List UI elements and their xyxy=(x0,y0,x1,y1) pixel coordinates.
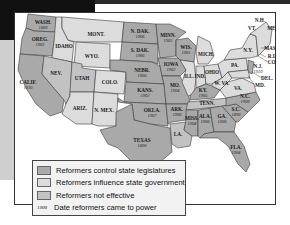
legend-label-date: Date reformers came to power xyxy=(54,203,157,212)
label-nh: N.H. xyxy=(255,17,266,23)
label-idaho: IDAHO xyxy=(55,43,73,49)
year-ark: 1900 xyxy=(173,112,183,117)
legend-item-not-effective: Reformers not effective xyxy=(37,189,181,202)
year-ga: 1906 xyxy=(218,119,228,124)
legend-label-control: Reformers control state legislatures xyxy=(56,166,175,175)
year-texas: 1890 xyxy=(138,143,148,148)
year-sdak: 1906 xyxy=(136,53,146,58)
year-iowa: 1902 xyxy=(167,67,177,72)
year-calif: 1910 xyxy=(24,85,34,90)
year-nj: 1910 xyxy=(254,69,264,74)
legend-swatch-not-effective xyxy=(37,191,51,200)
year-mo: 1904 xyxy=(171,88,181,93)
legend-swatch-control xyxy=(37,166,51,175)
year-ndak: 1906 xyxy=(136,34,146,39)
year-fla: 1904 xyxy=(232,150,242,155)
leader-line-ri xyxy=(260,54,266,57)
label-del: DEL. xyxy=(261,75,274,81)
legend-item-influence: Reformers influence state government xyxy=(37,177,181,190)
label-vt: VT. xyxy=(248,25,257,31)
label-mich: MICH. xyxy=(198,51,215,57)
year-wis: 1901 xyxy=(182,50,191,55)
legend-item-date: 1900 Date reformers came to power xyxy=(37,202,181,215)
leader-line-conn xyxy=(258,56,268,62)
label-colo: COLO. xyxy=(102,79,119,85)
label-conn: CONN. xyxy=(268,59,276,65)
state-mich xyxy=(196,36,214,64)
legend-item-control: Reformers control state legislatures xyxy=(37,164,181,177)
label-tenn: TENN. xyxy=(199,100,215,106)
year-ky: 1905 xyxy=(199,93,209,98)
legend-label-not-effective: Reformers not effective xyxy=(56,191,134,200)
legend-date-sample: 1900 xyxy=(37,205,50,210)
label-ill: ILL. xyxy=(184,73,195,79)
year-minn: 1902 xyxy=(164,38,174,43)
label-nmex: N. MEX. xyxy=(94,107,114,113)
legend-swatch-influence xyxy=(37,178,51,187)
label-mont: MONT. xyxy=(87,31,105,37)
year-nc: 1900 xyxy=(241,99,251,104)
label-va: VA. xyxy=(234,85,243,91)
state-mont xyxy=(62,17,124,42)
year-kans: 1902 xyxy=(141,93,151,98)
label-md: MD. xyxy=(255,82,266,88)
label-wva: W. VA. xyxy=(214,80,230,86)
background-top-strip xyxy=(95,0,290,4)
label-me: ME. xyxy=(267,25,276,31)
state-fla xyxy=(200,132,250,172)
year-okla: 1907 xyxy=(148,113,158,118)
state-ny xyxy=(224,34,258,60)
label-la: LA. xyxy=(174,131,183,137)
map-legend: Reformers control state legislatures Ref… xyxy=(32,160,186,216)
label-nev: NEV. xyxy=(50,70,62,76)
label-ohio: OHIO xyxy=(205,69,219,75)
year-miss: 1904 xyxy=(188,121,198,126)
year-ala: 1906 xyxy=(201,119,211,124)
label-ny: N.Y. xyxy=(243,47,253,53)
label-pa: PA. xyxy=(231,62,240,68)
label-ariz: ARIZ. xyxy=(73,105,88,111)
year-nebr: 1906 xyxy=(138,73,148,78)
label-wyo: WYO. xyxy=(85,53,100,59)
background-dark-strip xyxy=(0,0,95,12)
background-gray-panel xyxy=(0,40,14,180)
year-sc: 1890 xyxy=(232,112,242,117)
year-oreg: 1902 xyxy=(36,42,46,47)
label-utah: UTAH xyxy=(75,75,90,81)
legend-label-influence: Reformers influence state government xyxy=(56,178,185,187)
year-wash: 1889 xyxy=(39,25,49,30)
